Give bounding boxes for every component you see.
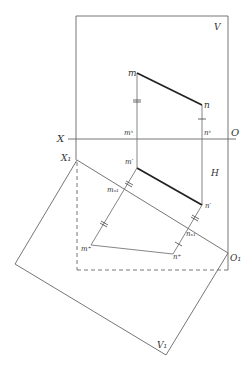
label-point-n-prime: n′ bbox=[205, 202, 212, 210]
label-point-m-prime: m′ bbox=[125, 158, 134, 166]
front-view-segment-mn bbox=[137, 73, 202, 105]
label-plane-v: V bbox=[214, 22, 222, 32]
label-axis-x1: X₁ bbox=[60, 153, 71, 163]
label-point-mx1: mₓ₁ bbox=[107, 186, 119, 194]
label-point-n: n bbox=[204, 100, 210, 110]
label-point-m: m bbox=[128, 68, 137, 78]
label-point-nx: nˣ bbox=[204, 129, 212, 137]
label-axis-o: O bbox=[231, 127, 239, 138]
label-plane-v1: V₁ bbox=[157, 340, 167, 350]
label-point-nx1: nₓ₁ bbox=[186, 230, 196, 238]
label-point-mx: mˣ bbox=[124, 129, 134, 137]
projection-diagram: V H V₁ X O X₁ O₁ m n mˣ nˣ m′ n′ mₓ₁ nₓ₁… bbox=[0, 0, 252, 367]
v1-plane-frame bbox=[15, 160, 228, 355]
equal-distance-ticks bbox=[100, 100, 206, 246]
label-axis-o1: O₁ bbox=[230, 253, 241, 263]
auxiliary-projection-lines bbox=[91, 168, 202, 254]
auxiliary-view-segment-mn bbox=[91, 245, 173, 254]
label-plane-h: H bbox=[210, 168, 219, 178]
label-point-n-plus: n⁺ bbox=[173, 253, 182, 261]
h-plane-dashed-boundary bbox=[77, 162, 228, 270]
label-axis-x: X bbox=[56, 133, 65, 144]
label-point-m-plus: m⁺ bbox=[81, 245, 92, 253]
top-view-segment-mn bbox=[137, 168, 202, 205]
